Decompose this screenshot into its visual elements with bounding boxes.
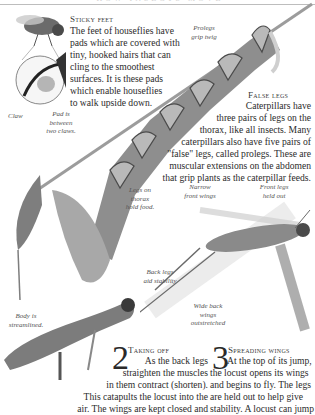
caption-prolegs-line: Prolegs bbox=[186, 24, 222, 33]
sticky-feet-line: surfaces. It is these pads bbox=[70, 73, 180, 85]
caption-pad-line: two claws. bbox=[44, 127, 78, 136]
taking-off-line: straighten the muscles bbox=[58, 367, 208, 379]
caption-back-legs-line: Back legs bbox=[140, 268, 180, 277]
spreading-wings-line: and begins to fly. The legs bbox=[210, 379, 315, 391]
taking-off-line: in them contract (shorten). bbox=[58, 379, 208, 391]
false-legs-line: Caterpillars have bbox=[111, 100, 311, 112]
caption-legs-thorax-line: Legs on bbox=[122, 186, 158, 195]
spreading-wings-line: are held out to help give bbox=[210, 391, 315, 403]
sticky-feet-line: The feet of houseflies have bbox=[70, 25, 180, 37]
taking-off-line: This catapults the locust into the bbox=[58, 391, 208, 403]
caption-wide-wings-line: wings bbox=[186, 311, 230, 320]
caption-claw: Claw bbox=[8, 112, 23, 121]
false-legs-line: three pairs of legs on the bbox=[111, 112, 311, 124]
false-legs-line: "false" legs, called prolegs. These are bbox=[111, 148, 311, 160]
caption-narrow-wings-line: Narrow bbox=[178, 183, 222, 192]
sticky-feet-heading: Sticky feet bbox=[70, 14, 113, 24]
caption-back-legs-line: aid stability bbox=[140, 277, 180, 286]
caption-legs-thorax-line: hold food. bbox=[122, 203, 158, 212]
spreading-wings-heading: Spreading wings bbox=[228, 345, 290, 355]
false-legs-line: thorax, like all insects. Many bbox=[111, 124, 311, 136]
caption-narrow-wings-line: front wings bbox=[178, 192, 222, 201]
caption-front-legs-line: held out bbox=[252, 192, 296, 201]
sticky-feet-line: pads which are covered with bbox=[70, 37, 180, 49]
caption-wide-wings-line: outstretched bbox=[186, 319, 230, 328]
caption-wide-wings-line: Wide back bbox=[186, 302, 230, 311]
caption-body-line: Body is bbox=[6, 312, 46, 321]
sticky-feet-line: cling to the smoothest bbox=[70, 61, 180, 73]
sticky-feet-line: tiny, hooked hairs that can bbox=[70, 49, 180, 61]
false-legs-line: muscular extensions on the abdomen bbox=[111, 160, 311, 172]
false-legs-heading: False legs bbox=[248, 90, 288, 100]
taking-off-heading: Taking off bbox=[128, 345, 169, 355]
caption-pad-line: between bbox=[44, 119, 78, 128]
taking-off-line: As the back legs bbox=[58, 355, 208, 367]
sticky-feet-line: which enable houseflies bbox=[70, 85, 180, 97]
spreading-wings-line: At the top of its jump, bbox=[210, 355, 315, 367]
caption-body-line: streamlined. bbox=[6, 321, 46, 330]
spreading-wings-line: the locust opens its wings bbox=[210, 367, 315, 379]
false-legs-line: caterpillars also have five pairs of bbox=[111, 136, 311, 148]
caption-pad-line: Pad is bbox=[44, 110, 78, 119]
caption-front-legs-line: Front legs bbox=[252, 183, 296, 192]
taking-off-line: air. The wings are kept closed and bbox=[58, 403, 208, 415]
caption-legs-thorax-line: thorax bbox=[122, 195, 158, 204]
spreading-wings-line: stability. A locust can jump bbox=[210, 403, 315, 415]
caption-prolegs-line: grip twig bbox=[186, 33, 222, 42]
